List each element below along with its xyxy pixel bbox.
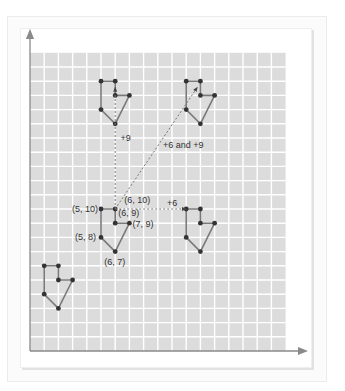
coordinate-label: (6, 9) bbox=[118, 208, 139, 218]
vertex-dot bbox=[42, 263, 47, 268]
vertex-dot bbox=[184, 235, 189, 240]
vertex-dot bbox=[113, 221, 118, 226]
arrow-right-6-label: +6 bbox=[167, 198, 177, 208]
vertex-dot bbox=[113, 249, 118, 254]
vertex-dot bbox=[198, 221, 203, 226]
vertex-dot bbox=[99, 107, 104, 112]
vertex-dot bbox=[212, 93, 217, 98]
vertex-dot bbox=[198, 93, 203, 98]
vertex-dot bbox=[99, 207, 104, 212]
vertex-dot bbox=[212, 221, 217, 226]
grid bbox=[30, 53, 286, 351]
coordinate-label: (6, 10) bbox=[124, 195, 150, 205]
arrow-up-9-label: +9 bbox=[121, 133, 131, 143]
vertex-dot bbox=[127, 221, 132, 226]
vertex-dot bbox=[42, 292, 47, 297]
vertex-dot bbox=[198, 207, 203, 212]
vertex-dot bbox=[56, 306, 61, 311]
vertex-dot bbox=[198, 249, 203, 254]
coordinate-label: (5, 8) bbox=[75, 232, 96, 242]
vertex-dot bbox=[99, 235, 104, 240]
vertex-dot bbox=[113, 79, 118, 84]
vertex-dot bbox=[198, 121, 203, 126]
translation-diagram: +9+6 and +9+6(5, 10)(6, 10)(6, 9)(7, 9)(… bbox=[0, 0, 345, 391]
vertex-dot bbox=[184, 79, 189, 84]
arrow-diagonal-label: +6 and +9 bbox=[163, 140, 204, 150]
coordinate-label: (6, 7) bbox=[104, 257, 125, 267]
vertex-dot bbox=[56, 278, 61, 283]
vertex-dot bbox=[198, 79, 203, 84]
vertex-dot bbox=[127, 93, 132, 98]
coordinate-label: (5, 10) bbox=[72, 204, 98, 214]
vertex-dot bbox=[184, 107, 189, 112]
coordinate-label: (7, 9) bbox=[132, 219, 153, 229]
vertex-dot bbox=[99, 79, 104, 84]
vertex-dot bbox=[70, 278, 75, 283]
vertex-dot bbox=[56, 263, 61, 268]
